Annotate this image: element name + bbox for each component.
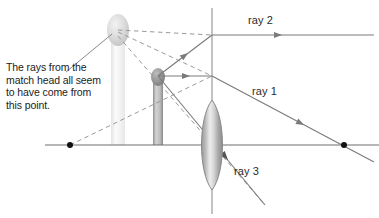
virtual-extension-1 — [118, 32, 212, 76]
ray-1-arrowhead-refracted — [296, 119, 306, 128]
ray-2-arrowhead-refracted — [274, 32, 282, 38]
virtual-ray-extensions — [70, 30, 265, 205]
ray-3-label: ray 3 — [234, 165, 259, 177]
virtual-extension-2 — [118, 30, 212, 35]
ray-2-path — [158, 35, 374, 76]
match-object-head — [151, 68, 165, 86]
ray-1-arrowhead-incident — [182, 73, 190, 79]
optics-diagram-figure: The rays from the match head all seem to… — [0, 0, 379, 218]
ray-2-label: ray 2 — [248, 14, 273, 26]
focal-point-left — [67, 142, 73, 148]
caption-text: The rays from the match head all seem to… — [6, 61, 118, 111]
focal-point-right — [341, 142, 347, 148]
match-object-stick — [153, 82, 163, 145]
converging-lens — [202, 100, 223, 190]
ray-1-label: ray 1 — [252, 85, 277, 97]
virtual-extension-3 — [118, 36, 265, 205]
match-object — [151, 68, 165, 145]
ray-1-refracted — [212, 76, 374, 162]
